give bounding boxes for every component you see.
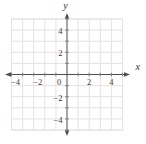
coordinate-plane-figure: −4−22442−2−40xy [0,0,146,144]
y-axis-label: y [62,0,68,11]
figure-background [0,0,146,144]
y-tick-label: −2 [53,93,62,103]
coordinate-plane: −4−22442−2−40xy [0,0,146,144]
x-axis-label: x [135,61,141,72]
x-tick-label: −2 [33,77,42,87]
y-tick-label: 2 [58,48,62,58]
x-tick-label: −4 [11,77,21,87]
x-tick-label: 2 [87,77,91,87]
y-tick-label: −4 [53,115,63,125]
x-tick-label: 4 [109,77,114,87]
origin-label: 0 [57,77,61,87]
